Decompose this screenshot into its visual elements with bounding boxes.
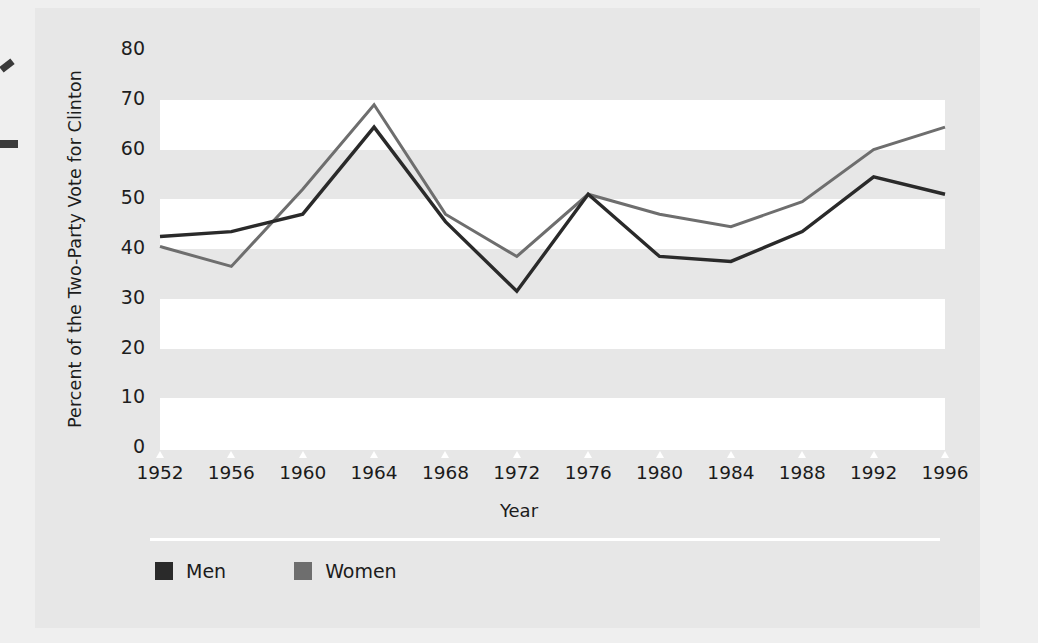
- legend-label: Men: [186, 560, 226, 582]
- series-line-men: [160, 127, 945, 291]
- legend-label: Women: [325, 560, 397, 582]
- chart-series-layer: [0, 0, 1038, 643]
- legend-item-women[interactable]: Women: [294, 560, 397, 582]
- legend-separator-rule: [150, 538, 940, 541]
- legend-swatch-icon: [294, 562, 312, 580]
- chart-legend: MenWomen: [155, 560, 465, 582]
- legend-item-men[interactable]: Men: [155, 560, 226, 582]
- legend-swatch-icon: [155, 562, 173, 580]
